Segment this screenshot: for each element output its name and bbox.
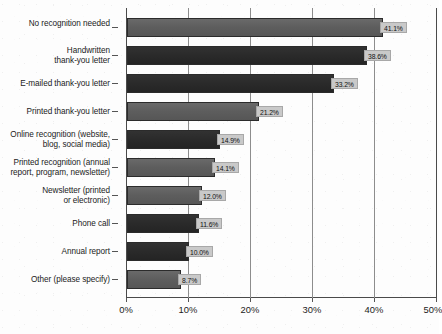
category-tick — [112, 111, 118, 112]
category-label: Annual report — [0, 247, 110, 257]
value-label: 14.9% — [217, 134, 244, 145]
category-label: E-mailed thank-you letter — [0, 79, 110, 89]
x-tick — [374, 298, 375, 302]
category-tick — [112, 223, 118, 224]
category-tick — [112, 251, 118, 252]
bar-online-recognition[interactable] — [127, 130, 220, 149]
category-tick — [112, 139, 118, 140]
value-label: 12.0% — [199, 190, 226, 201]
value-label: 33.2% — [331, 78, 358, 89]
category-label: Newsletter (printed or electronic) — [0, 186, 110, 205]
category-label: Handwritten thank-you letter — [0, 46, 110, 65]
plot-area: 41.1% 38.6% 33.2% 21.2% 14.9% 14.1% 12.0… — [126, 8, 437, 298]
x-tick-label: 20% — [241, 304, 260, 315]
x-tick — [188, 298, 189, 302]
x-tick — [250, 298, 251, 302]
x-axis: 0% 10% 20% 30% 40% 50% — [126, 298, 437, 328]
bar-phone-call[interactable] — [127, 214, 199, 233]
category-tick — [112, 195, 118, 196]
category-tick — [112, 279, 118, 280]
category-label: Online recognition (website, blog, socia… — [0, 130, 110, 149]
x-tick — [312, 298, 313, 302]
category-label: Printed thank-you letter — [0, 107, 110, 117]
x-tick — [436, 298, 437, 302]
value-label: 38.6% — [364, 50, 391, 61]
bar-printed-recognition[interactable] — [127, 158, 215, 177]
category-label: No recognition needed — [0, 19, 110, 29]
category-label: Phone call — [0, 219, 110, 229]
bar-no-recognition-needed[interactable] — [127, 18, 383, 37]
plot-right-border — [436, 8, 437, 298]
value-label: 14.1% — [212, 162, 239, 173]
x-tick-label: 10% — [179, 304, 198, 315]
bar-other-please-specify[interactable] — [127, 270, 181, 289]
bar-emailed-thank-you-letter[interactable] — [127, 74, 334, 93]
x-tick-label: 30% — [303, 304, 322, 315]
value-label: 41.1% — [380, 22, 407, 33]
category-tick — [112, 167, 118, 168]
bar-newsletter[interactable] — [127, 186, 202, 205]
value-label: 10.0% — [186, 246, 213, 257]
bar-handwritten-thank-you-letter[interactable] — [127, 46, 367, 65]
x-tick-label: 50% — [424, 304, 442, 315]
category-tick — [112, 55, 118, 56]
category-label: Other (please specify) — [0, 275, 110, 285]
bar-annual-report[interactable] — [127, 242, 189, 261]
category-label: Printed recognition (annual report, prog… — [0, 158, 110, 177]
bar-printed-thank-you-letter[interactable] — [127, 102, 259, 121]
x-tick-label: 40% — [365, 304, 384, 315]
value-label: 21.2% — [256, 106, 283, 117]
category-axis-labels: No recognition needed Handwritten thank-… — [0, 0, 118, 294]
category-tick — [112, 83, 118, 84]
category-tick — [112, 27, 118, 28]
value-label: 11.6% — [196, 218, 222, 229]
x-tick-label: 0% — [119, 304, 133, 315]
x-tick — [126, 298, 127, 302]
value-label: 8.7% — [178, 274, 201, 285]
